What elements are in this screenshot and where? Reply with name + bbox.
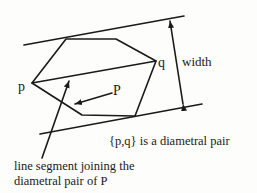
lower-support-line [40, 104, 202, 134]
vertex-q-label: q [158, 56, 165, 70]
vertex-p-label: p [18, 80, 25, 94]
segment-caption-line1: line segment joining the [14, 160, 134, 173]
polygon-label: P [113, 84, 121, 98]
upper-support-line [24, 16, 184, 45]
polygon-pointer-arrow [75, 93, 112, 104]
segment-caption-line2: diametral pair of P [14, 175, 107, 188]
convex-polygon [32, 39, 156, 116]
width-label: width [182, 55, 212, 68]
diametral-segment [32, 61, 156, 83]
caption-diametral-pair: {p,q} is a diametral pair [109, 135, 230, 148]
